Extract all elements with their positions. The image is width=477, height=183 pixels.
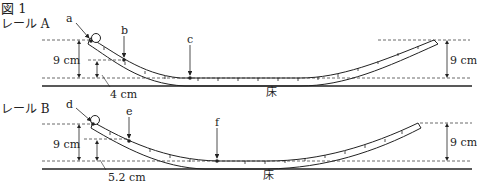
point-c-label: c bbox=[187, 34, 193, 45]
rail-a-name: レール A bbox=[1, 18, 49, 30]
rail-a-ticks bbox=[104, 46, 418, 81]
rail-b-name: レール B bbox=[1, 103, 50, 115]
rail-a-group bbox=[42, 23, 472, 87]
point-b-marker bbox=[122, 58, 126, 62]
rail-a-floor-label: 床 bbox=[266, 87, 277, 98]
rail-b-group bbox=[42, 108, 472, 170]
point-d-marker bbox=[91, 122, 95, 126]
point-b-label: b bbox=[121, 25, 128, 36]
rail-a-b-height: 4 cm bbox=[110, 89, 137, 100]
figure-title: 図 1 bbox=[1, 2, 26, 15]
rail-a-bottom-edge bbox=[88, 44, 438, 86]
point-e-label: e bbox=[126, 106, 133, 117]
rail-a-start-height: 9 cm bbox=[53, 55, 80, 66]
rail-b-floor-label: 床 bbox=[263, 170, 274, 181]
point-e-marker bbox=[127, 139, 131, 143]
rail-b-bottom-edge bbox=[91, 128, 421, 169]
point-a-arrow bbox=[76, 23, 89, 38]
point-a-label: a bbox=[66, 13, 73, 24]
rail-a-top-edge bbox=[90, 38, 434, 78]
point-f-marker bbox=[215, 159, 219, 163]
rail-b-end-height: 9 cm bbox=[450, 137, 477, 148]
rail-a-end-height: 9 cm bbox=[450, 55, 477, 66]
point-a-marker bbox=[89, 39, 93, 43]
point-d-label: d bbox=[66, 99, 73, 110]
point-c-marker bbox=[188, 76, 192, 80]
rail-b-top-edge bbox=[93, 122, 418, 161]
rail-b-e-height: 5.2 cm bbox=[108, 172, 146, 183]
rail-b-start-height: 9 cm bbox=[53, 139, 80, 150]
rail-a-ball bbox=[92, 34, 101, 43]
point-d-arrow bbox=[76, 108, 91, 121]
point-f-label: f bbox=[215, 117, 219, 128]
